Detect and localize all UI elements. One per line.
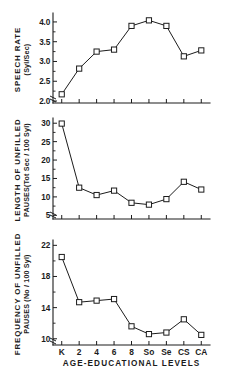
data-point-marker [146,18,151,23]
chart-panel-2: 10141822FREQUENCY OF UNFILLEDPAUSES (No … [13,233,210,356]
x-tick-label: Se [161,347,172,357]
data-series-line [62,257,202,335]
x-tick-label: 4 [94,347,99,357]
y-tick-label: 25 [41,138,50,147]
data-point-marker [111,296,116,301]
chart-panel-1: 51015202530LENGTH OF UNFILLEDPAUSES(Tot … [13,118,210,222]
y-tick-label: 4.0 [39,18,50,27]
y-axis-title: LENGTH OF UNFILLED [13,119,22,222]
y-tick-label: 14 [41,304,50,313]
y-tick-label: 30 [41,119,50,128]
y-axis-title: FREQUENCY OF UNFILLED [13,233,22,356]
figure-container: 2.02.53.03.54.0SPEECH RATE(Syl/Sec)51015… [0,0,228,388]
data-point-marker [77,66,82,71]
data-point-marker [94,192,99,197]
y-tick-label: 5 [46,211,51,220]
data-point-marker [146,202,151,207]
x-tick-label: So [144,347,155,357]
data-series-line [62,20,202,94]
x-tick-label: CA [195,347,207,357]
data-point-marker [129,324,134,329]
y-axis-units: (Syl/Sec) [23,43,31,75]
x-axis-title: AGE-EDUCATIONAL LEVELS [63,359,201,368]
data-point-marker [199,48,204,53]
data-point-marker [111,188,116,193]
data-series-line [62,124,202,205]
y-tick-label: 20 [41,156,50,165]
data-point-marker [129,23,134,28]
y-axis-units: PAUSES (No / 100 Syl) [23,254,31,334]
data-point-marker [59,121,64,126]
data-point-marker [59,92,64,97]
data-point-marker [199,332,204,337]
x-tick-label: CS [178,347,190,357]
data-point-marker [181,179,186,184]
y-tick-label: 3.0 [39,57,50,66]
x-tick-label: 8 [129,347,134,357]
data-point-marker [59,254,64,259]
y-tick-label: 2.5 [39,77,50,86]
x-tick-label: 2 [77,347,82,357]
y-axis-units: PAUSES(Tot Sec / 100 Syl) [23,123,31,217]
data-point-marker [77,300,82,305]
y-tick-label: 10 [41,193,50,202]
y-tick-label: 2.0 [39,97,50,106]
data-point-marker [94,49,99,54]
y-tick-label: 22 [41,241,50,250]
x-tick-label: 6 [112,347,117,357]
y-tick-label: 3.5 [39,38,50,47]
data-point-marker [94,298,99,303]
data-point-marker [181,54,186,59]
y-tick-label: 10 [41,335,50,344]
multi-panel-line-chart: 2.02.53.03.54.0SPEECH RATE(Syl/Sec)51015… [0,0,228,388]
chart-panel-0: 2.02.53.03.54.0SPEECH RATE(Syl/Sec) [13,13,210,106]
data-point-marker [164,23,169,28]
data-point-marker [77,185,82,190]
data-point-marker [164,197,169,202]
y-axis-title: SPEECH RATE [13,27,22,92]
y-tick-label: 15 [41,174,50,183]
data-point-marker [181,317,186,322]
x-tick-label: K [59,347,65,357]
data-point-marker [111,47,116,52]
data-point-marker [199,187,204,192]
y-tick-label: 18 [41,272,50,281]
data-point-marker [164,330,169,335]
data-point-marker [129,200,134,205]
data-point-marker [146,332,151,337]
